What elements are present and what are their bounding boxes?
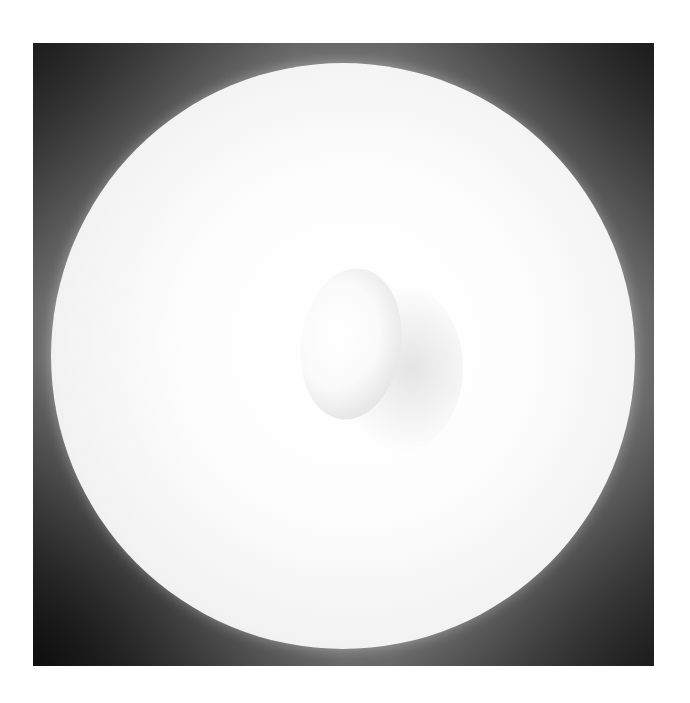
- photograph: [33, 43, 654, 666]
